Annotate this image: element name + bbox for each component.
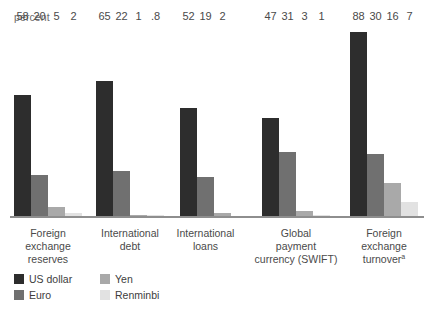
x-axis-category-label-line: Foreign — [329, 227, 439, 240]
bar-rect — [96, 81, 113, 217]
bar-value-label: 20 — [33, 11, 45, 22]
bar-rect — [384, 183, 401, 217]
x-axis-category-label-line: turnovera — [329, 253, 439, 266]
legend-item[interactable]: Euro — [14, 290, 100, 301]
legend-color-swatch — [100, 274, 110, 284]
bar-value-label: 3 — [301, 11, 307, 22]
bar-value-label: 19 — [199, 11, 211, 22]
bar-group-bars: 65221.8 — [96, 24, 164, 217]
chart-legend: US dollarYenEuroRenminbi — [14, 271, 244, 303]
bar-group-bars: 8830167 — [350, 24, 418, 217]
bar-value-label: 88 — [352, 11, 364, 22]
legend-item[interactable]: US dollar — [14, 274, 100, 285]
bar-value-label: 2 — [70, 11, 76, 22]
bar-value-label: 16 — [386, 11, 398, 22]
bar-value-label: 7 — [406, 11, 412, 22]
bar-value-label: 30 — [369, 11, 381, 22]
bar-value-label: 31 — [281, 11, 293, 22]
bar-value-label: .8 — [151, 11, 160, 22]
bar[interactable]: 16 — [384, 24, 401, 217]
bar[interactable]: 31 — [279, 24, 296, 217]
bar[interactable]: 2 — [65, 24, 82, 217]
bar[interactable]: 3 — [296, 24, 313, 217]
bar[interactable]: 5 — [48, 24, 65, 217]
x-axis-category-label-line: reserves — [0, 253, 103, 266]
legend-color-swatch — [100, 290, 110, 300]
bar[interactable]: 19 — [197, 24, 214, 217]
x-axis-baseline — [10, 216, 424, 218]
legend-item-label: US dollar — [29, 274, 72, 285]
bar[interactable]: 65 — [96, 24, 113, 217]
bar-group-bars: 473131 — [262, 24, 330, 217]
legend-item[interactable]: Renminbi — [100, 290, 220, 301]
bar-value-label: 65 — [98, 11, 110, 22]
bar[interactable]: 1 — [313, 24, 330, 217]
legend-item-label: Renminbi — [115, 290, 159, 301]
legend-item-label: Euro — [29, 290, 51, 301]
bar-rect — [113, 171, 130, 217]
bar[interactable]: .8 — [147, 24, 164, 217]
bar-value-label: 1 — [318, 11, 324, 22]
bar[interactable]: 7 — [401, 24, 418, 217]
bar-value-label: 52 — [182, 11, 194, 22]
bar-value-label: 5 — [53, 11, 59, 22]
bar[interactable]: 2 — [214, 24, 231, 217]
x-axis-category-label-line: exchange — [329, 240, 439, 253]
bar[interactable]: 22 — [113, 24, 130, 217]
bar[interactable]: 20 — [31, 24, 48, 217]
bar-rect — [31, 175, 48, 217]
bar-value-label: 1 — [135, 11, 141, 22]
plot-area: 58205265221.8521924731318830167 — [0, 24, 441, 217]
bar[interactable]: 52 — [180, 24, 197, 217]
bar-chart: percent 58205265221.8521924731318830167 … — [0, 0, 441, 319]
bar-value-label: 47 — [264, 11, 276, 22]
bar-rect — [197, 177, 214, 217]
bar[interactable]: 30 — [367, 24, 384, 217]
bar-group-bars: 52192 — [180, 24, 231, 217]
bar[interactable]: 88 — [350, 24, 367, 217]
bar[interactable]: 58 — [14, 24, 31, 217]
bar-value-label: 58 — [16, 11, 28, 22]
legend-color-swatch — [14, 274, 24, 284]
bar-rect — [14, 95, 31, 217]
x-axis-category-label: Foreignexchangeturnovera — [329, 227, 439, 266]
bar-rect — [367, 154, 384, 217]
bar[interactable]: 47 — [262, 24, 279, 217]
bar-rect — [401, 202, 418, 217]
bar-rect — [180, 108, 197, 217]
bar-rect — [350, 32, 367, 217]
bar[interactable]: 1 — [130, 24, 147, 217]
bar-value-label: 22 — [115, 11, 127, 22]
legend-item[interactable]: Yen — [100, 274, 220, 285]
legend-color-swatch — [14, 290, 24, 300]
legend-item-label: Yen — [115, 274, 133, 285]
bar-group-bars: 582052 — [14, 24, 82, 217]
bar-rect — [262, 118, 279, 217]
bar-rect — [279, 152, 296, 217]
bar-value-label: 2 — [219, 11, 225, 22]
footnote-marker: a — [401, 253, 405, 260]
